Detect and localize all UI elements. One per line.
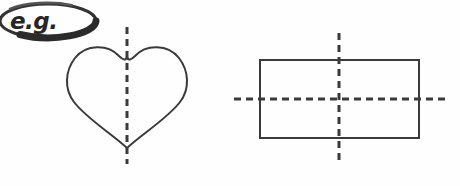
heart-outline-icon	[67, 47, 187, 148]
eg-label: e.g.	[10, 8, 58, 34]
symmetry-examples-illustration: e.g.	[0, 0, 460, 186]
eg-callout: e.g.	[0, 3, 96, 38]
rectangle-figure	[234, 33, 446, 165]
heart-figure	[67, 27, 187, 164]
worksheet-figure-canvas: e.g.	[0, 0, 460, 186]
